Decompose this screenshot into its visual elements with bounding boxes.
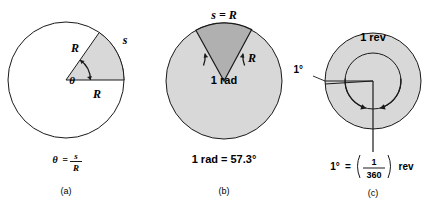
- panel-c-formula: 1° = 1 360 rev: [330, 155, 414, 180]
- panel-c-formula-numerator: 1: [371, 157, 376, 167]
- panel-a-caption: (a): [61, 186, 72, 196]
- panel-a: θ R R s θ = s R (a): [8, 22, 128, 196]
- panel-b: s = R R 1 rad 1 rad = 57.3° (b): [166, 8, 282, 196]
- panel-a-formula-equals: =: [62, 154, 68, 165]
- panel-a-angle-label: θ: [69, 74, 75, 86]
- panel-b-radius-label: R: [247, 51, 256, 65]
- panel-c-formula-unit: rev: [398, 161, 413, 172]
- panel-c-caption: (c): [368, 188, 379, 198]
- panel-a-radius-upper-label: R: [70, 41, 79, 55]
- panel-b-arc-label: s = R: [210, 8, 237, 22]
- panel-a-radius-lower-label: R: [92, 87, 101, 101]
- panel-a-arc-label: s: [122, 33, 128, 47]
- panel-b-formula: 1 rad = 57.3°: [192, 153, 257, 165]
- panel-c-degree-label: 1°: [293, 64, 303, 75]
- panel-c-formula-lhs: 1°: [330, 161, 340, 172]
- panel-c-formula-denominator: 360: [366, 170, 381, 180]
- panel-a-formula: θ = s R: [52, 151, 82, 173]
- panel-c-degree-leader: [313, 76, 325, 81]
- panel-c-paren-left: [358, 155, 361, 178]
- panel-b-caption: (b): [219, 186, 230, 196]
- panel-a-formula-lhs: θ: [52, 154, 58, 165]
- panel-b-arc-label-group: s = R: [210, 8, 237, 22]
- panel-c-revolution-label: 1 rev: [360, 31, 387, 43]
- angular-measure-diagram: θ R R s θ = s R (a) s = R R 1 rad 1 r: [0, 0, 448, 204]
- panel-c-paren-right: [388, 155, 391, 178]
- figure-container: θ R R s θ = s R (a) s = R R 1 rad 1 r: [0, 0, 448, 204]
- panel-b-angle-label: 1 rad: [211, 74, 237, 86]
- panel-c: 1 rev 1° 1° = 1 360 rev (c): [293, 31, 421, 198]
- panel-a-formula-numerator: s: [73, 151, 78, 161]
- panel-a-formula-denominator: R: [72, 163, 79, 173]
- panel-c-formula-equals: =: [345, 161, 351, 172]
